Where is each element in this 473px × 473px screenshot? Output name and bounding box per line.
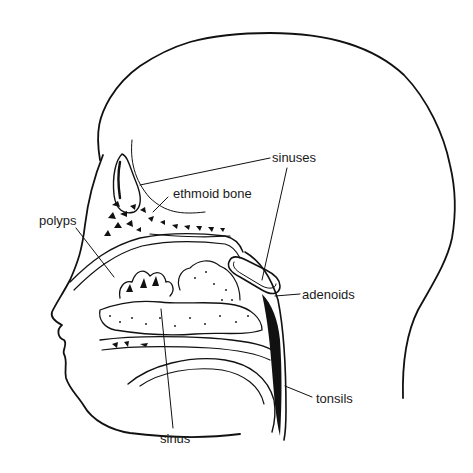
polyps-shape [120,271,173,298]
label-sinuses: sinuses [272,150,317,165]
label-ethmoid-bone: ethmoid bone [173,186,252,201]
sinus-shading [119,162,121,198]
anatomy-diagram: sinuses ethmoid bone polyps adenoids ton… [0,0,473,473]
adenoids-tonsils-shape [262,294,282,436]
leader-sinuses-frontal [140,158,270,185]
leader-adenoids [275,294,300,296]
brow-line [132,140,205,213]
label-polyps: polyps [39,213,77,228]
nasal-mucosa [100,301,262,335]
adenoid-mass [178,261,240,300]
leader-tonsils [285,386,312,397]
palate-lower [102,347,270,360]
sphenoid-inner [233,262,276,288]
nasal-roof [70,234,243,282]
leader-ethmoid [153,197,168,212]
label-sinus: sinus [160,431,191,446]
ethmoid-bone-texture [104,201,225,236]
leader-sinuses-sphenoid [262,168,287,280]
leader-sinus [161,309,173,428]
tongue [128,359,275,432]
tongue-inner [140,369,264,404]
label-adenoids: adenoids [302,287,355,302]
label-tonsils: tonsils [316,391,353,406]
